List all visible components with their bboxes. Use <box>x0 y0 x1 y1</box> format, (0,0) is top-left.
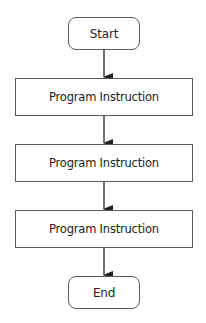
process-node-3: Program Instruction <box>15 210 193 248</box>
process-label-2: Program Instruction <box>49 156 159 170</box>
end-node: End <box>68 276 140 309</box>
process-label-1: Program Instruction <box>49 90 159 104</box>
start-label: Start <box>90 27 118 41</box>
process-node-1: Program Instruction <box>15 78 193 116</box>
process-node-2: Program Instruction <box>15 144 193 182</box>
process-label-3: Program Instruction <box>49 222 159 236</box>
end-label: End <box>93 286 115 300</box>
start-node: Start <box>68 17 140 50</box>
